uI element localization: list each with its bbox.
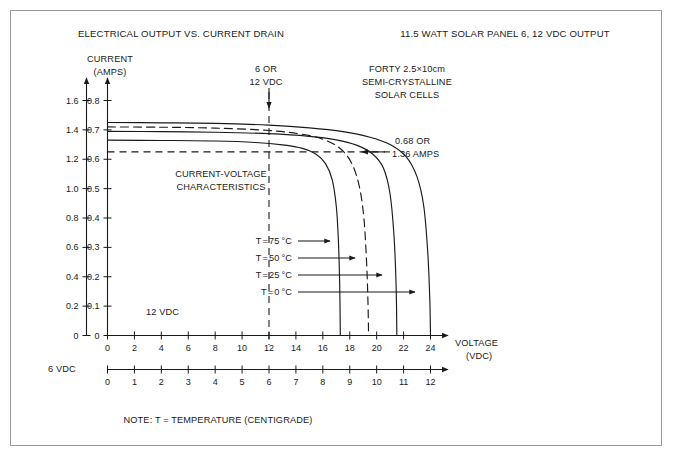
curve-t-50-c [108, 127, 369, 336]
callout-arrows [269, 88, 415, 292]
plot-canvas [0, 0, 674, 458]
reference-lines [108, 92, 386, 345]
curve-t-25-c [108, 131, 397, 335]
figure-root: ELECTRICAL OUTPUT VS. CURRENT DRAIN 11.5… [0, 0, 674, 458]
curve-t-75-c [108, 140, 341, 335]
